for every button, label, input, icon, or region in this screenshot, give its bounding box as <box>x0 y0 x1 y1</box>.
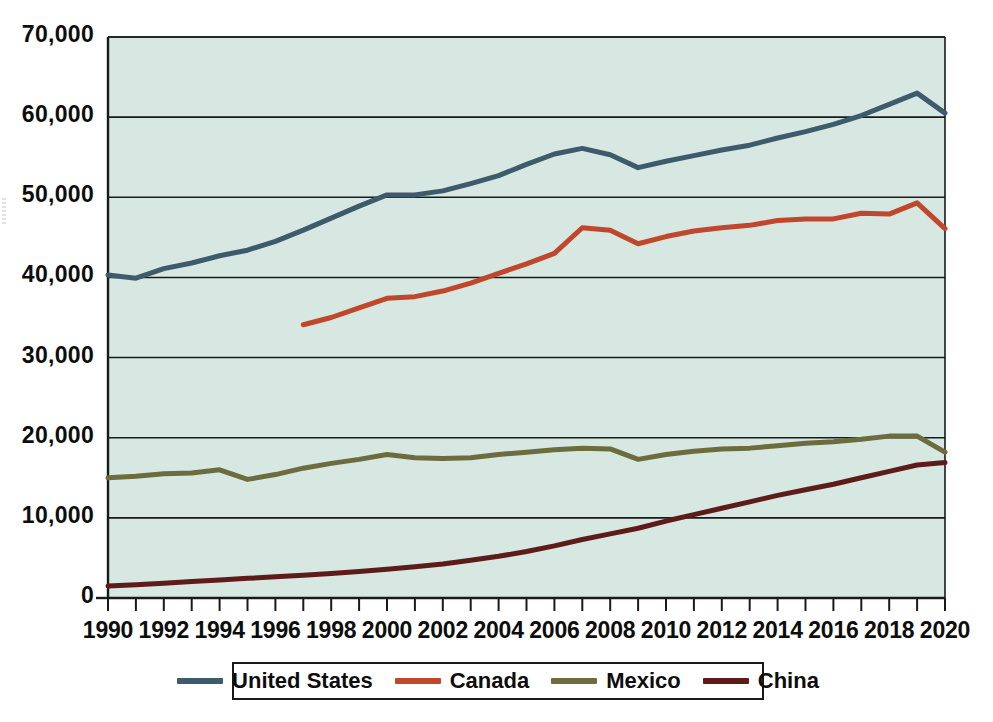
chart-canvas <box>0 0 993 722</box>
series-line-china <box>108 463 945 586</box>
legend-swatch-icon <box>703 678 749 684</box>
legend-label: China <box>758 668 819 694</box>
legend-item-china[interactable]: China <box>703 668 819 694</box>
x-tick-label-2020: 2020 <box>905 617 985 644</box>
series-line-united-states <box>108 93 945 278</box>
y-tick-label-30000: 30,000 <box>22 342 94 369</box>
legend-item-canada[interactable]: Canada <box>395 668 529 694</box>
y-tick-label-50000: 50,000 <box>22 181 94 208</box>
legend-label: United States <box>232 668 373 694</box>
legend-item-mexico[interactable]: Mexico <box>551 668 681 694</box>
y-tick-label-0: 0 <box>81 582 94 609</box>
legend-item-united-states[interactable]: United States <box>177 668 373 694</box>
legend-swatch-icon <box>551 678 597 684</box>
legend-label: Mexico <box>606 668 681 694</box>
y-tick-label-70000: 70,000 <box>22 21 94 48</box>
series-line-canada <box>303 203 945 325</box>
series-line-mexico <box>108 436 945 479</box>
y-tick-label-60000: 60,000 <box>22 101 94 128</box>
y-tick-label-20000: 20,000 <box>22 422 94 449</box>
legend-swatch-icon <box>177 678 223 684</box>
y-tick-label-10000: 10,000 <box>22 502 94 529</box>
chart-legend: United StatesCanadaMexicoChina <box>232 662 764 700</box>
line-chart: 010,00020,00030,00040,00050,00060,00070,… <box>0 0 993 722</box>
y-tick-label-40000: 40,000 <box>22 261 94 288</box>
legend-swatch-icon <box>395 678 441 684</box>
legend-label: Canada <box>450 668 529 694</box>
